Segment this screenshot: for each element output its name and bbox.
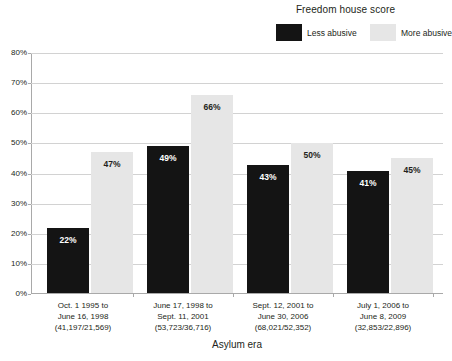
y-tick-label-50: 50%: [2, 138, 27, 147]
y-tick-label-80: 80%: [2, 48, 27, 57]
legend: Freedom house score Less abusive More ab…: [244, 0, 447, 46]
x-category-label-2: June 17, 1998 to Sept. 11, 2001 (53,723/…: [135, 300, 231, 333]
bar-more-abusive-3[interactable]: 50%: [291, 143, 333, 294]
y-tick-label-0: 0%: [2, 289, 27, 298]
y-tick-label-20: 20%: [2, 229, 27, 238]
x-tick-3: [333, 294, 334, 297]
bar-value-less-abusive-1: 22%: [47, 235, 89, 245]
bar-group-1: 22% 47%: [41, 53, 134, 294]
x-axis-line: [31, 293, 443, 294]
bar-value-more-abusive-1: 47%: [91, 159, 133, 169]
x-category-label-1-line2: June 16, 1998: [35, 311, 131, 322]
y-tick-label-10: 10%: [2, 259, 27, 268]
legend-entry-less-abusive: Less abusive: [276, 24, 362, 42]
x-category-label-3: Sept. 12, 2001 to June 30, 2006 (68,021/…: [235, 300, 331, 333]
x-category-label-2-line2: Sept. 11, 2001: [135, 311, 231, 322]
bar-more-abusive-4[interactable]: 45%: [391, 158, 433, 294]
bar-value-less-abusive-2: 49%: [147, 153, 189, 163]
x-tick-2: [233, 294, 234, 297]
x-category-label-4-line2: June 8, 2009: [335, 311, 431, 322]
bar-value-more-abusive-2: 66%: [191, 102, 233, 112]
x-category-label-1: Oct. 1 1995 to June 16, 1998 (41,197/21,…: [35, 300, 131, 333]
x-category-label-4-line1: July 1, 2006 to: [335, 300, 431, 311]
x-category-label-1-line1: Oct. 1 1995 to: [35, 300, 131, 311]
bar-less-abusive-3[interactable]: 43%: [247, 165, 289, 295]
x-category-label-4-line3: (32,853/22,896): [335, 322, 431, 333]
x-category-label-3-line3: (68,021/52,352): [235, 322, 331, 333]
x-tick-1: [133, 294, 134, 297]
y-tick-label-30: 30%: [2, 199, 27, 208]
x-category-label-3-line2: June 30, 2006: [235, 311, 331, 322]
x-tick-4: [433, 294, 434, 297]
bar-group-4: 41% 45%: [341, 53, 434, 294]
bar-more-abusive-1[interactable]: 47%: [91, 152, 133, 294]
y-tick-label-60: 60%: [2, 108, 27, 117]
legend-label-more-abusive: More abusive: [401, 28, 452, 38]
bar-value-less-abusive-3: 43%: [247, 172, 289, 182]
x-axis-title: Asylum era: [31, 339, 443, 350]
bar-less-abusive-2[interactable]: 49%: [147, 146, 189, 294]
bar-more-abusive-2[interactable]: 66%: [191, 95, 233, 294]
legend-title: Freedom house score: [244, 4, 447, 15]
x-category-label-4: July 1, 2006 to June 8, 2009 (32,853/22,…: [335, 300, 431, 333]
x-category-label-1-line3: (41,197/21,569): [35, 322, 131, 333]
x-category-label-2-line1: June 17, 1998 to: [135, 300, 231, 311]
legend-label-less-abusive: Less abusive: [307, 28, 357, 38]
bar-less-abusive-4[interactable]: 41%: [347, 171, 389, 295]
bar-group-3: 43% 50%: [241, 53, 334, 294]
chart-plot-area: 80% 70% 60% 50% 40% 30% 20% 10% 0% 22% 4…: [31, 53, 443, 294]
bar-value-more-abusive-3: 50%: [291, 150, 333, 160]
y-tick-label-40: 40%: [2, 169, 27, 178]
x-category-label-2-line3: (53,723/36,716): [135, 322, 231, 333]
legend-entry-more-abusive: More abusive: [370, 24, 450, 42]
legend-swatch-less-abusive: [276, 24, 302, 41]
bar-value-more-abusive-4: 45%: [391, 165, 433, 175]
bar-group-2: 49% 66%: [141, 53, 234, 294]
bar-less-abusive-1[interactable]: 22%: [47, 228, 89, 294]
x-axis-category-labels: Oct. 1 1995 to June 16, 1998 (41,197/21,…: [31, 300, 443, 334]
legend-swatch-more-abusive: [370, 24, 396, 41]
y-tick-label-70: 70%: [2, 78, 27, 87]
x-category-label-3-line1: Sept. 12, 2001 to: [235, 300, 331, 311]
bar-value-less-abusive-4: 41%: [347, 178, 389, 188]
